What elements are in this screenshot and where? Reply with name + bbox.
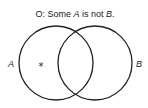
set-a-circle xyxy=(19,26,93,100)
set-a-label: A xyxy=(7,59,14,69)
title-suffix: . xyxy=(112,9,115,19)
title-middle: is not xyxy=(79,9,106,19)
diagram-title: O: Some A is not B. xyxy=(35,9,114,19)
title-subject: A xyxy=(72,9,79,19)
existence-marker: * xyxy=(39,61,44,72)
set-b-circle xyxy=(58,26,132,100)
set-b-label: B xyxy=(136,59,142,69)
venn-diagram: O: Some A is not B. A B * xyxy=(0,0,148,108)
title-prefix: O: Some xyxy=(35,9,73,19)
